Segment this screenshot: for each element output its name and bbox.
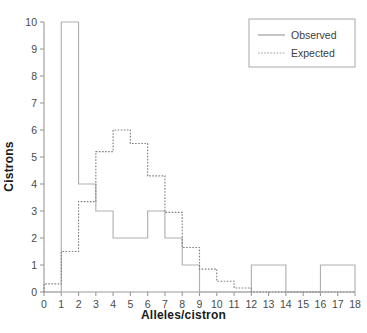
- legend-label-expected: Expected: [291, 47, 335, 59]
- y-tick-label: 8: [31, 70, 37, 82]
- x-axis-title: Alleles/cistron: [0, 308, 367, 322]
- y-tick-label: 1: [31, 259, 37, 271]
- y-tick-label: 5: [31, 151, 37, 163]
- y-tick-label: 3: [31, 205, 37, 217]
- y-tick-label: 2: [31, 232, 37, 244]
- y-tick-label: 6: [31, 124, 37, 136]
- histogram-plot: 0123456789100123456789101112131415161718…: [0, 0, 367, 333]
- legend-box: [249, 19, 355, 67]
- y-tick-label: 4: [31, 178, 37, 190]
- y-tick-label: 7: [31, 97, 37, 109]
- y-tick-label: 10: [25, 16, 37, 28]
- y-tick-label: 0: [31, 286, 37, 298]
- legend-label-observed: Observed: [291, 29, 337, 41]
- y-tick-label: 9: [31, 43, 37, 55]
- chart-figure: Cistrons 0123456789100123456789101112131…: [0, 0, 367, 333]
